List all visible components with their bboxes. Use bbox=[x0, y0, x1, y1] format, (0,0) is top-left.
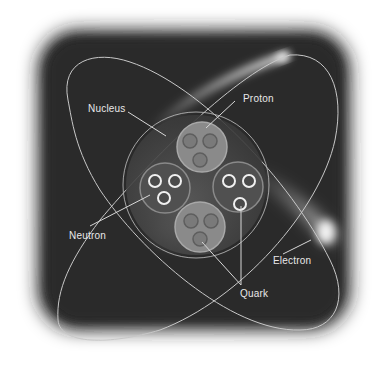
proton-bottom bbox=[175, 202, 225, 252]
quark bbox=[193, 232, 207, 246]
quark bbox=[158, 192, 170, 204]
quark bbox=[193, 153, 207, 167]
neutron-right bbox=[213, 162, 263, 212]
neutron-label: Neutron bbox=[69, 230, 106, 241]
quark bbox=[183, 134, 197, 148]
quark bbox=[234, 198, 246, 210]
quark bbox=[243, 175, 255, 187]
neutron-left bbox=[140, 163, 190, 213]
quark bbox=[203, 134, 217, 148]
quark bbox=[169, 175, 181, 187]
quark bbox=[149, 175, 161, 187]
quark bbox=[184, 214, 198, 228]
quark-label: Quark bbox=[240, 288, 268, 299]
atom-illustration bbox=[0, 0, 378, 370]
atom-diagram: Nucleus Proton Neutron Electron Quark bbox=[0, 0, 378, 370]
nucleus-label: Nucleus bbox=[88, 103, 126, 114]
quark bbox=[223, 175, 235, 187]
electron-label: Electron bbox=[273, 255, 311, 266]
proton-top bbox=[177, 122, 227, 172]
quark bbox=[204, 214, 218, 228]
proton-label: Proton bbox=[243, 93, 274, 104]
